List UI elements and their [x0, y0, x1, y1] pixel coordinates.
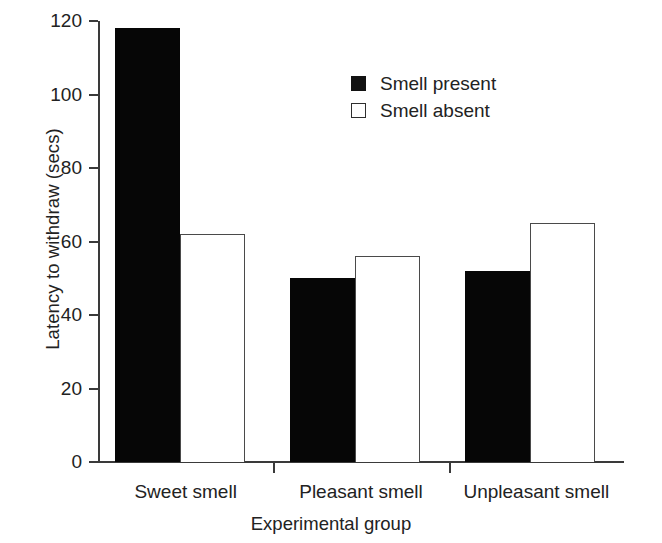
filled-square-icon — [351, 76, 366, 91]
bar-pleasant-smell-smell-present — [290, 278, 355, 462]
y-tick-mark — [89, 20, 98, 22]
bar-sweet-smell-smell-present — [115, 28, 180, 462]
legend-label: Smell absent — [380, 100, 490, 122]
bar-unpleasant-smell-smell-present — [465, 271, 530, 462]
y-tick-label: 40 — [22, 304, 82, 326]
y-tick-mark — [89, 314, 98, 316]
y-tick-label: 120 — [22, 10, 82, 32]
y-tick-mark — [89, 94, 98, 96]
y-tick-mark — [89, 241, 98, 243]
open-square-icon — [351, 103, 366, 118]
legend: Smell present Smell absent — [351, 70, 496, 124]
y-tick-mark — [89, 167, 98, 169]
y-tick-label: 20 — [22, 378, 82, 400]
legend-label: Smell present — [380, 73, 496, 95]
bar-pleasant-smell-smell-absent — [355, 256, 420, 462]
y-tick-label: 80 — [22, 157, 82, 179]
y-tick-mark — [89, 461, 98, 463]
x-tick-mark — [273, 463, 275, 473]
x-axis-title: Experimental group — [0, 513, 662, 535]
y-tick-label: 60 — [22, 231, 82, 253]
x-category-label: Sweet smell — [134, 481, 236, 503]
bar-chart: Latency to withdraw (secs) 0204060801001… — [0, 0, 662, 543]
bar-unpleasant-smell-smell-absent — [530, 223, 595, 462]
y-tick-mark — [89, 388, 98, 390]
x-category-label: Pleasant smell — [299, 481, 423, 503]
y-tick-label: 0 — [22, 451, 82, 473]
bar-sweet-smell-smell-absent — [180, 234, 245, 462]
x-category-label: Unpleasant smell — [463, 481, 609, 503]
legend-item-smell-present[interactable]: Smell present — [351, 70, 496, 97]
x-tick-mark — [449, 463, 451, 473]
y-tick-label: 100 — [22, 84, 82, 106]
legend-item-smell-absent[interactable]: Smell absent — [351, 97, 496, 124]
